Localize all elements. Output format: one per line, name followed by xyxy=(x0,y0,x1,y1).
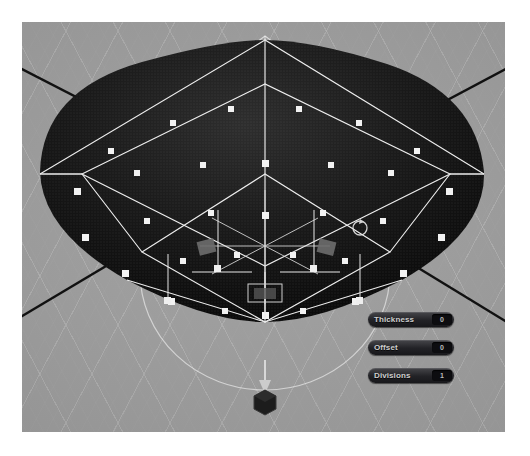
parameter-thickness-label: Thickness xyxy=(374,312,432,327)
parameter-divisions-label: Divisions xyxy=(374,368,432,383)
parameter-divisions[interactable]: Divisions 1 xyxy=(368,368,454,383)
move-arrow-gizmo xyxy=(259,360,271,394)
parameter-offset-value[interactable]: 0 xyxy=(432,342,452,353)
parameter-thickness-value[interactable]: 0 xyxy=(432,314,452,325)
parameter-offset-label: Offset xyxy=(374,340,432,355)
app-root: Thickness 0 Offset 0 Divisions 1 xyxy=(0,0,530,456)
3d-viewport[interactable]: Thickness 0 Offset 0 Divisions 1 xyxy=(22,22,505,432)
parameter-panel[interactable]: Thickness 0 Offset 0 Divisions 1 xyxy=(368,312,468,396)
parameter-divisions-value[interactable]: 1 xyxy=(432,370,452,381)
origin-cube-gizmo xyxy=(254,390,276,415)
parameter-thickness[interactable]: Thickness 0 xyxy=(368,312,454,327)
parameter-offset[interactable]: Offset 0 xyxy=(368,340,454,355)
